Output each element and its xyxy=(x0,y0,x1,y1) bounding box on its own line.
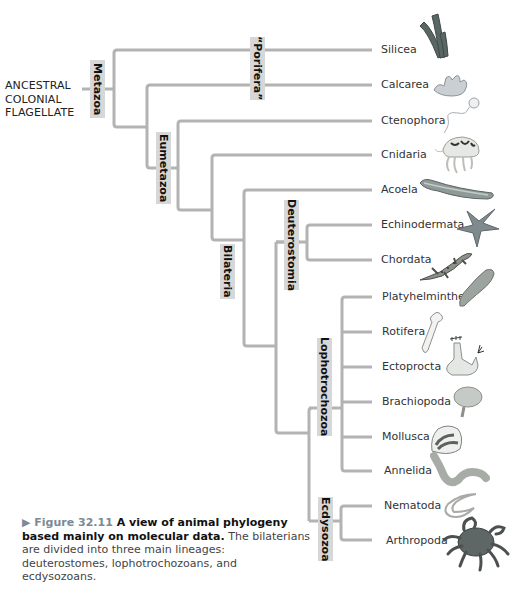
figure-caption: ▶ Figure 32.11 A view of animal phylogen… xyxy=(22,516,312,584)
taxon-mollusca: Mollusca xyxy=(382,430,430,443)
comb-jelly-icon xyxy=(440,95,482,135)
clade-label: Deuterostomia xyxy=(285,199,298,291)
bryozoan-icon xyxy=(438,335,488,381)
root-label-line: FLAGELLATE xyxy=(5,106,74,120)
taxon-acoela: Acoela xyxy=(381,183,418,196)
clade-eumetazoa: Eumetazoa xyxy=(156,132,171,204)
clade-label: Ecdysozoa xyxy=(319,497,332,562)
flatworm-icon xyxy=(456,268,496,308)
clade-metazoa: Metazoa xyxy=(90,60,105,118)
taxon-brachiopoda: Brachiopoda xyxy=(382,395,451,408)
clade-label: “Porifera” xyxy=(251,36,264,100)
root-label-line: COLONIAL xyxy=(5,93,74,107)
taxon-arthropoda: Arthropoda xyxy=(386,534,448,547)
clade-label: Lophotrochozoa xyxy=(318,337,331,436)
clade-ecdysozoa: Ecdysozoa xyxy=(318,497,333,561)
root-label-line: ANCESTRAL xyxy=(5,79,74,93)
clade-bilateria: Bilateria xyxy=(220,244,235,299)
taxon-cnidaria: Cnidaria xyxy=(381,148,427,161)
taxon-ctenophora: Ctenophora xyxy=(381,114,445,127)
taxon-ectoprocta: Ectoprocta xyxy=(382,360,441,373)
clam-shell-icon xyxy=(428,423,464,455)
clade-label: Bilateria xyxy=(221,245,234,298)
lamp-shell-icon xyxy=(450,385,484,419)
flatworm-acoel-icon xyxy=(418,177,496,201)
clade-deuterostomia: Deuterostomia xyxy=(284,200,299,290)
crab-icon xyxy=(440,516,520,572)
sponge-tubes-icon xyxy=(410,12,450,62)
taxon-annelida: Annelida xyxy=(384,464,432,477)
taxon-calcarea: Calcarea xyxy=(381,78,429,91)
root-ancestor-label: ANCESTRAL COLONIAL FLAGELLATE xyxy=(5,79,74,120)
clade-label: Metazoa xyxy=(91,63,104,115)
taxon-nematoda: Nematoda xyxy=(384,499,441,512)
segmented-worm-icon xyxy=(430,452,490,488)
sea-star-icon xyxy=(455,207,501,249)
clade-label: Eumetazoa xyxy=(157,134,170,202)
jellyfish-icon xyxy=(433,135,483,175)
taxon-echinodermata: Echinodermata xyxy=(381,218,464,231)
clade-porifera: “Porifera” xyxy=(250,37,265,100)
figure-number: ▶ Figure 32.11 xyxy=(22,516,113,529)
clade-lophotrochozoa: Lophotrochozoa xyxy=(317,338,332,436)
